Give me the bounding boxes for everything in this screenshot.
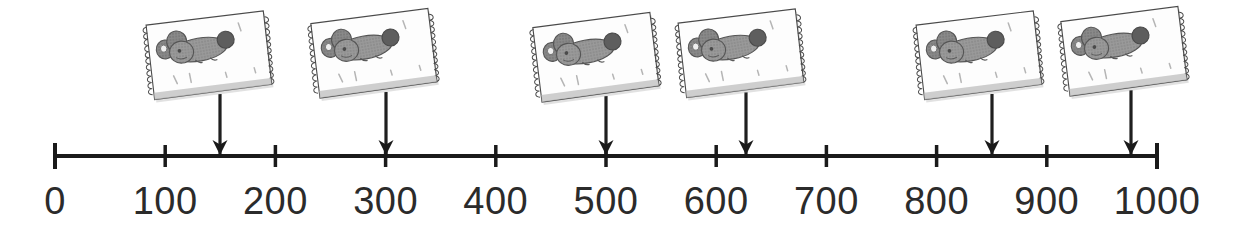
mouse-inner-ear [930, 45, 937, 53]
tick-label-0: 0 [44, 182, 66, 220]
mouse-card-graphic [907, 8, 1046, 103]
marker-arrows [213, 140, 1139, 155]
tick-label-700: 700 [794, 182, 859, 220]
mouse-card-inner [1051, 4, 1190, 100]
mouse-card-graphic [669, 6, 808, 101]
mouse-photo-card-500 [523, 10, 662, 106]
mouse-card-graphic [1051, 4, 1190, 100]
number-line-figure: 01002003004005006007008009001000 [0, 0, 1246, 242]
mouse-card-inner [669, 6, 808, 101]
mouse-photo-card-850 [907, 8, 1046, 103]
mouse-card-inner [137, 8, 276, 103]
mouse-card-inner [907, 8, 1046, 103]
mouse-inner-ear [547, 47, 554, 55]
mouse-inner-ear [692, 43, 699, 51]
mouse-photo-card-627 [669, 6, 808, 101]
tick-label-100: 100 [133, 182, 198, 220]
mouse-card-graphic [523, 10, 662, 106]
mouse-photo-card-300 [301, 6, 440, 102]
tick-label-900: 900 [1014, 182, 1079, 220]
mouse-card-graphic [137, 8, 276, 103]
mouse-card-inner [523, 10, 662, 106]
mouse-card-inner [301, 6, 440, 102]
mouse-card-graphic [301, 6, 440, 102]
tick-label-800: 800 [904, 182, 969, 220]
tick-label-300: 300 [353, 182, 418, 220]
tick-label-1000: 1000 [1114, 182, 1201, 220]
mouse-inner-ear [1075, 41, 1082, 49]
mouse-inner-ear [160, 45, 167, 53]
tick-label-200: 200 [243, 182, 308, 220]
tick-label-600: 600 [684, 182, 749, 220]
tick-label-500: 500 [574, 182, 639, 220]
mouse-photo-card-150 [137, 8, 276, 103]
mouse-inner-ear [325, 43, 332, 51]
tick-label-400: 400 [463, 182, 528, 220]
mouse-photo-card-976 [1051, 4, 1190, 100]
